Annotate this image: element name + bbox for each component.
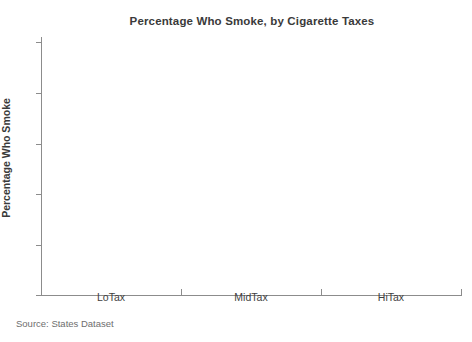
- y-axis-title: Percentage Who Smoke: [0, 78, 16, 238]
- chart-title: Percentage Who Smoke, by Cigarette Taxes: [42, 15, 462, 27]
- y-axis-tick: [36, 295, 42, 296]
- y-axis-tick: [36, 194, 42, 195]
- y-axis-tick: [36, 245, 42, 246]
- source-note: Source: States Dataset: [16, 318, 114, 329]
- x-axis-tick: [181, 289, 182, 295]
- y-axis-tick: [36, 144, 42, 145]
- x-axis-tick: [461, 289, 462, 295]
- x-axis-tick: [41, 289, 42, 295]
- x-axis-tick: [321, 289, 322, 295]
- x-axis-label-midtax: MidTax: [234, 291, 267, 303]
- y-axis-tick: [36, 42, 42, 43]
- y-axis-line: [41, 37, 42, 296]
- y-axis-tick: [36, 93, 42, 94]
- x-axis-label-lotax: LoTax: [97, 291, 125, 303]
- chart-figure: Percentage Who Smoke, by Cigarette Taxes…: [0, 0, 472, 342]
- plot-area: [41, 37, 462, 295]
- x-axis-label-hitax: HiTax: [378, 291, 404, 303]
